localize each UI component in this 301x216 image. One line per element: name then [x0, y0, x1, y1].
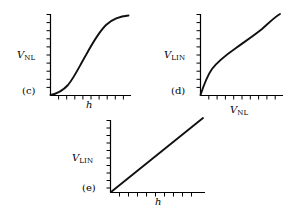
- panel-e-y-sub: LIN: [79, 157, 93, 165]
- figure-panel-group: VNL h (c): [0, 0, 301, 216]
- panel-e-curve: [111, 118, 203, 192]
- panel-d-y-sub: LIN: [171, 54, 185, 62]
- panel-d-y-axis-label: VLIN: [164, 45, 185, 62]
- panel-d-curve: [201, 14, 281, 95]
- panel-e-x-axis-label: h: [155, 197, 161, 207]
- panel-c-y-axis-label: VNL: [17, 45, 35, 62]
- panel-e: VLIN h (e): [60, 110, 240, 216]
- panel-c-letter: (c): [22, 86, 35, 96]
- panel-d: VLIN VNL (d): [150, 0, 301, 112]
- panel-c: VNL h (c): [0, 0, 150, 112]
- panel-e-y-axis-label: VLIN: [72, 148, 93, 165]
- panel-c-x-axis-label: h: [86, 100, 92, 110]
- panel-c-curve: [51, 16, 129, 96]
- panel-c-y-sub: NL: [24, 54, 35, 62]
- panel-e-letter: (e): [82, 183, 96, 193]
- panel-d-y-ticks: [197, 15, 201, 88]
- panel-d-letter: (d): [171, 86, 185, 96]
